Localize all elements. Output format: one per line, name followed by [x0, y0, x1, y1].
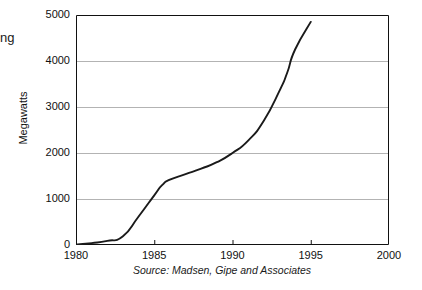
x-tick-label: 1985 [129, 249, 179, 261]
plot-frame [77, 16, 389, 245]
data-line-series-0 [76, 22, 311, 245]
y-tick-label: 5000 [26, 8, 70, 20]
clipped-heading-fragment: ng [0, 30, 14, 45]
x-tick-label: 2000 [364, 249, 414, 261]
y-tick-label: 1000 [26, 192, 70, 204]
x-tick-label: 1995 [286, 249, 336, 261]
x-tick-label: 1980 [51, 249, 101, 261]
source-note: Source: Madsen, Gipe and Associates [72, 264, 372, 276]
y-tick-label: 3000 [26, 100, 70, 112]
x-tick-label: 1990 [208, 249, 258, 261]
line-chart-svg [76, 15, 389, 245]
chart-figure: ng Megawatts 010002000300040005000 19801… [0, 0, 422, 290]
gridlines [76, 62, 389, 200]
y-tick-label: 4000 [26, 54, 70, 66]
y-tick-label: 2000 [26, 146, 70, 158]
y-axis-label: Megawatts [17, 83, 29, 153]
plot-area [76, 15, 389, 245]
